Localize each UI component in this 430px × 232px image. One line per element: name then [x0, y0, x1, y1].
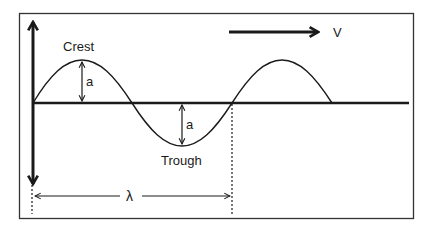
wavelength-label: λ	[126, 188, 133, 204]
trough-label: Trough	[161, 153, 202, 168]
wave-diagram: a a Crest Trough V λ	[0, 0, 430, 232]
trough-amplitude-label: a	[186, 117, 194, 132]
crest-amplitude-label: a	[86, 74, 94, 89]
velocity-label: V	[333, 25, 342, 40]
crest-label: Crest	[63, 39, 94, 54]
